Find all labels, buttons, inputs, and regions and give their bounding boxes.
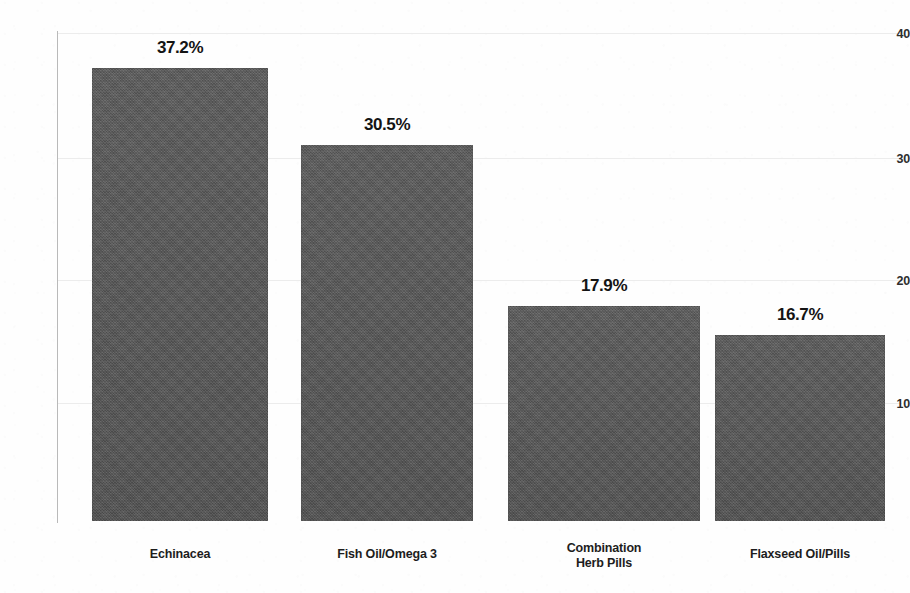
y-axis-tick-30: 30	[868, 153, 910, 166]
bar-flaxseed-oil-pills	[715, 335, 885, 521]
x-axis-label-fish-oil-omega-3: Fish Oil/Omega 3	[291, 547, 483, 562]
value-label-echinacea: 37.2%	[92, 39, 268, 56]
value-label-flaxseed-oil-pills: 16.7%	[715, 306, 885, 323]
x-axis-label-echinacea: Echinacea	[92, 547, 268, 562]
bar-chart: 40 30 20 10 37.2% 30.5% 17.9% 16.7% Echi…	[0, 0, 910, 593]
value-label-fish-oil-omega-3: 30.5%	[301, 116, 473, 133]
x-axis-label-combination-herb-pills: Combination Herb Pills	[508, 541, 700, 571]
gridline-40	[58, 33, 902, 34]
bar-combination-herb-pills	[508, 306, 700, 521]
y-axis-line	[57, 31, 58, 523]
bar-fish-oil-omega-3	[301, 145, 473, 521]
x-axis-label-flaxseed-oil-pills: Flaxseed Oil/Pills	[705, 547, 895, 562]
value-label-combination-herb-pills: 17.9%	[508, 277, 700, 294]
y-axis-tick-40: 40	[868, 28, 910, 41]
bar-echinacea	[92, 68, 268, 521]
y-axis-tick-20: 20	[868, 275, 910, 288]
